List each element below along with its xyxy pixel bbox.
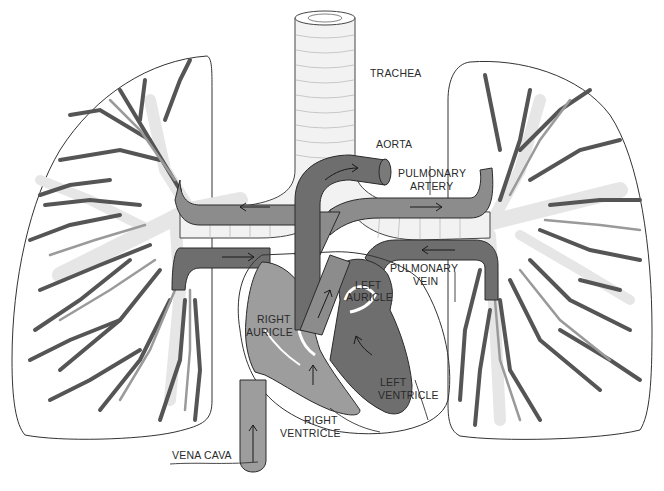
- label-left-ventricle-line1: LEFT: [380, 376, 407, 388]
- label-pulmonary-vein-line1: PULMONARY: [390, 262, 458, 274]
- label-vena-cava: VENA CAVA: [172, 449, 232, 461]
- label-left-ventricle-line2: VENTRICLE: [378, 389, 439, 401]
- aorta-opening: [379, 159, 391, 185]
- label-trachea: TRACHEA: [370, 67, 422, 79]
- label-left-auricle-line2: AURICLE: [346, 291, 393, 303]
- heart-lungs-diagram: TRACHEA AORTA PULMONARY ARTERY PULMONARY…: [0, 0, 664, 491]
- label-right-auricle-line1: RIGHT: [257, 313, 291, 325]
- label-right-auricle-line2: AURICLE: [246, 326, 293, 338]
- label-pulmonary-artery-line1: PULMONARY: [398, 167, 466, 179]
- label-pulmonary-artery-line2: ARTERY: [410, 180, 453, 192]
- label-pulmonary-vein-line2: VEIN: [413, 275, 438, 287]
- label-left-auricle-line1: LEFT: [355, 279, 382, 291]
- left-bronchial-tree: [30, 60, 240, 420]
- label-right-ventricle-line2: VENTRICLE: [280, 427, 341, 439]
- vena-cava: [240, 380, 266, 472]
- label-aorta: AORTA: [376, 138, 412, 150]
- label-right-ventricle-line1: RIGHT: [304, 414, 338, 426]
